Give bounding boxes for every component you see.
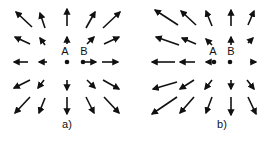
field-arrow	[205, 80, 212, 89]
field-arrow	[38, 80, 44, 88]
field-arrow	[86, 97, 94, 113]
field-arrow	[39, 98, 45, 113]
field-arrow	[16, 12, 32, 27]
point-label: A	[209, 45, 217, 57]
field-arrow	[40, 13, 45, 28]
point-b	[81, 60, 86, 65]
field-arrow	[247, 80, 254, 89]
field-arrow	[153, 82, 177, 89]
field-arrow	[181, 11, 196, 25]
point-label: A	[61, 45, 69, 57]
field-arrow	[248, 38, 253, 43]
panel-label: a)	[62, 118, 72, 130]
field-arrow	[156, 37, 179, 45]
field-arrow	[206, 97, 212, 113]
field-arrow	[40, 38, 45, 45]
field-arrow	[104, 97, 119, 113]
field-arrow	[248, 11, 254, 25]
field-arrow	[103, 12, 120, 28]
panel-label: b)	[217, 118, 227, 130]
panel-a: ABa)	[14, 9, 120, 130]
field-arrow	[182, 38, 196, 44]
field-arrow	[14, 80, 30, 88]
field-arrow	[155, 10, 178, 25]
point-a	[65, 60, 70, 65]
field-arrow	[87, 37, 94, 44]
panel-b: ABb)	[152, 10, 256, 130]
field-arrow	[206, 11, 212, 26]
point-b	[228, 60, 233, 65]
field-arrow	[180, 97, 194, 113]
field-arrow	[104, 37, 119, 44]
field-arrow	[86, 12, 95, 28]
vector-field-diagram: ABa) ABb)	[0, 0, 268, 141]
field-arrow	[15, 37, 30, 44]
field-arrow	[180, 80, 194, 89]
field-arrow	[248, 97, 256, 114]
point-label: B	[227, 45, 234, 57]
field-arrow	[15, 97, 30, 113]
field-arrow	[103, 80, 119, 89]
point-label: B	[80, 45, 87, 57]
field-arrow	[152, 97, 177, 114]
field-arrow	[87, 80, 95, 88]
point-a	[212, 60, 217, 65]
